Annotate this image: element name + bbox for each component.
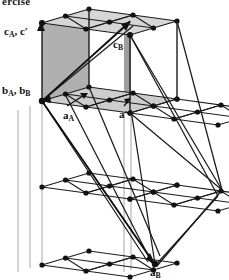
a-b-vector-arrow <box>42 101 156 266</box>
label-b-a-b-b: bA, bB <box>2 85 30 97</box>
label-a-b: aB <box>150 267 161 279</box>
label-a-prime: a′ <box>119 109 128 120</box>
origin-node <box>39 98 45 104</box>
lattice-figure: ercise <box>0 0 229 280</box>
label-c-a-c-prime: cA, c′ <box>4 26 28 38</box>
top-a-node <box>127 32 133 38</box>
top-origin-node <box>39 20 45 26</box>
label-c-b: cB <box>113 39 123 51</box>
label-a-a: aA <box>63 110 74 122</box>
lattice-layer-third-left <box>39 170 179 201</box>
